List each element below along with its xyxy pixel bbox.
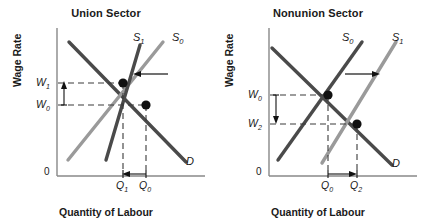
economics-supply-demand-figure: Union Sector Wage Rate Quantity of Labou… [0, 0, 424, 220]
quantity-label-q0-nonunion: Q0 [321, 179, 333, 193]
quantity-change-bracket-nonunion [328, 170, 357, 178]
quantity-change-bracket-union [122, 170, 146, 178]
supply-curve-s0-nonunion [278, 42, 362, 160]
supply-curve-s1-union [106, 45, 140, 160]
curve-label-d-nonunion: D [392, 157, 400, 169]
wage-label-w1-union: W1 [36, 76, 50, 90]
wage-change-bracket-union [61, 81, 67, 105]
curve-label-s1-nonunion: S1 [392, 31, 404, 46]
wage-label-w2-nonunion: W2 [248, 117, 262, 131]
wage-label-w0-union: W0 [36, 98, 50, 112]
quantity-label-q0-union: Q0 [139, 179, 151, 193]
wage-label-w0-nonunion: W0 [248, 88, 262, 102]
equilibrium-dot-w0q0-union [141, 100, 150, 109]
equilibrium-dot-w2q2-nonunion [352, 119, 361, 128]
demand-curve-union [69, 42, 186, 162]
curve-label-s1-union: S1 [133, 31, 145, 46]
curve-label-d-union: D [186, 155, 194, 167]
panel-nonunion-sector: Nonunion Sector Wage Rate Quantity of La… [212, 0, 424, 220]
wage-change-bracket-nonunion [273, 95, 279, 124]
supply-curve-s1-nonunion [322, 42, 396, 163]
curve-label-s0-nonunion: S0 [342, 31, 354, 46]
equilibrium-dot-w0q0-nonunion [323, 90, 332, 99]
equilibrium-dot-w1q1-union [118, 78, 127, 87]
panel-union-sector: Union Sector Wage Rate Quantity of Labou… [0, 0, 212, 220]
quantity-label-q1-union: Q1 [116, 179, 128, 193]
quantity-label-q2-nonunion: Q2 [350, 179, 362, 193]
supply-curve-s0-union [68, 42, 163, 160]
curve-label-s0-union: S0 [172, 31, 184, 46]
